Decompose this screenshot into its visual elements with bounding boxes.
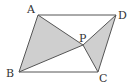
parallelogram-diagram: A D P B C [0, 0, 132, 84]
label-p: P [79, 32, 87, 45]
label-b: B [6, 67, 14, 80]
label-d: D [118, 9, 127, 22]
shaded-triangle-pcd [83, 15, 116, 72]
label-a: A [26, 3, 36, 16]
label-c: C [99, 72, 107, 84]
